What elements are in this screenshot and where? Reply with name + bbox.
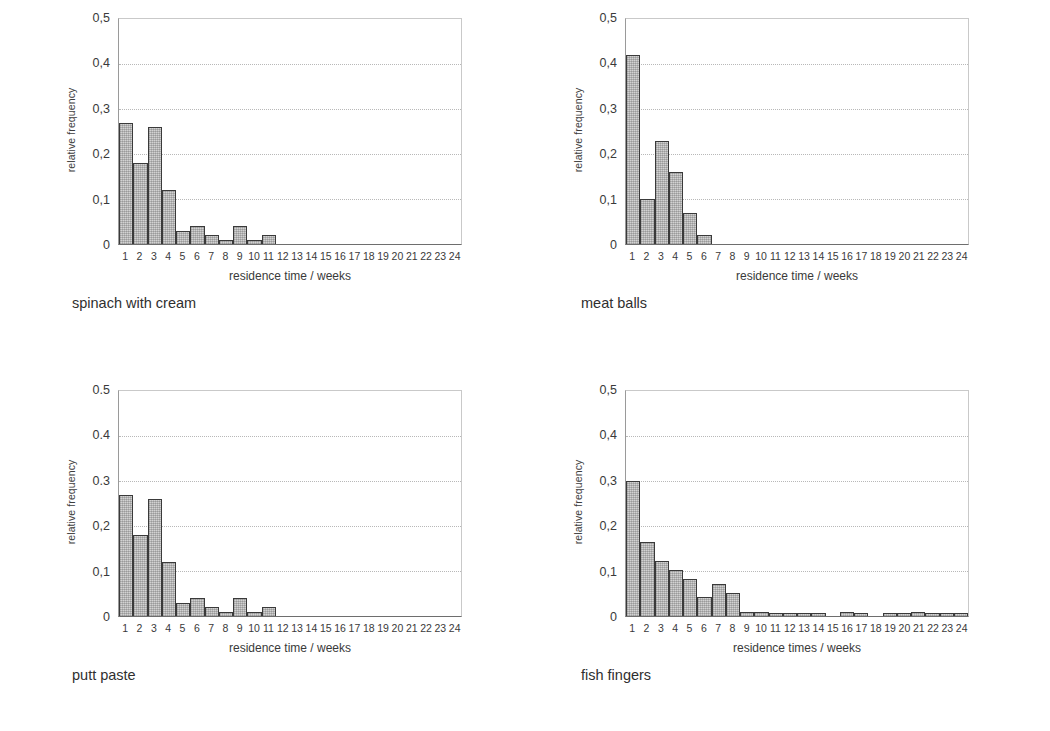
- bar: [119, 123, 133, 245]
- y-tick-label: 0,2: [600, 519, 617, 533]
- x-tick-label: 21: [912, 621, 926, 635]
- bar: [205, 235, 219, 244]
- bar-slot: [697, 391, 711, 616]
- y-tick-label: 0: [103, 238, 110, 252]
- bar: [954, 613, 968, 616]
- bar-slot: [347, 391, 361, 616]
- bar-slot: [911, 391, 925, 616]
- x-tick-label: 21: [405, 621, 419, 635]
- x-tick-label: 23: [433, 621, 447, 635]
- bar: [669, 570, 683, 616]
- x-tick-label: 5: [175, 621, 189, 635]
- x-tick-label: 17: [854, 249, 868, 263]
- bar: [726, 593, 740, 616]
- bar-slot: [940, 19, 954, 244]
- bar-slot: [754, 391, 768, 616]
- bar: [148, 499, 162, 616]
- x-tick-label: 20: [897, 249, 911, 263]
- bar-slot: [205, 19, 219, 244]
- bar: [133, 535, 147, 616]
- x-tick-label: 23: [940, 621, 954, 635]
- bar-slot: [233, 391, 247, 616]
- bar-slot: [304, 391, 318, 616]
- bar-slot: [376, 391, 390, 616]
- x-tick-label: 7: [204, 249, 218, 263]
- x-tick-label: 13: [797, 249, 811, 263]
- bar: [626, 55, 640, 244]
- x-tick-label: 14: [304, 621, 318, 635]
- bar: [262, 607, 276, 616]
- x-tick-label: 13: [797, 621, 811, 635]
- x-tick-label: 20: [897, 621, 911, 635]
- panel-caption: spinach with cream: [72, 295, 196, 311]
- x-tick-label: 2: [639, 249, 653, 263]
- bar: [754, 612, 768, 616]
- bar-slot: [811, 19, 825, 244]
- x-tick-label: 11: [768, 249, 782, 263]
- panel-caption: meat balls: [581, 295, 647, 311]
- bar-slot: [740, 391, 754, 616]
- x-tick-label: 1: [118, 249, 132, 263]
- bar-slot: [925, 391, 939, 616]
- x-tick-label: 8: [725, 621, 739, 635]
- x-tick-label: 23: [940, 249, 954, 263]
- x-tick-label: 10: [247, 621, 261, 635]
- x-tick-label: 4: [668, 621, 682, 635]
- x-tick-label: 11: [768, 621, 782, 635]
- bar-slot: [447, 391, 461, 616]
- x-tick-label: 15: [826, 249, 840, 263]
- bar-slot: [840, 391, 854, 616]
- bar-slot: [319, 19, 333, 244]
- bar-slot: [797, 19, 811, 244]
- x-tick-label: 3: [654, 249, 668, 263]
- bar-slot: [783, 391, 797, 616]
- bar-slot: [797, 391, 811, 616]
- y-tick-label: 0.4: [93, 428, 110, 442]
- panel-putt-paste: relative frequency 0.50.40.30,20,10 1234…: [0, 372, 505, 731]
- x-tick-label: 17: [347, 621, 361, 635]
- bar-slot: [418, 19, 432, 244]
- bar-slot: [190, 391, 204, 616]
- x-tick-label: 12: [783, 621, 797, 635]
- x-tick-label: 14: [811, 249, 825, 263]
- bar: [219, 240, 233, 245]
- x-tick-label: 3: [147, 249, 161, 263]
- panel-caption: putt paste: [72, 667, 136, 683]
- bar-slot: [361, 19, 375, 244]
- bar: [162, 190, 176, 244]
- bar-slot: [205, 391, 219, 616]
- bar: [783, 613, 797, 616]
- bar-slot: [219, 19, 233, 244]
- bar-slot: [447, 19, 461, 244]
- bar-series: [626, 19, 968, 244]
- bar: [219, 612, 233, 617]
- x-tick-label: 22: [419, 621, 433, 635]
- bar: [697, 235, 711, 244]
- x-axis-label: residence time / weeks: [118, 641, 462, 655]
- y-tick-label: 0,4: [600, 56, 617, 70]
- bar-slot: [290, 19, 304, 244]
- plot-area: [118, 18, 462, 245]
- bar: [262, 235, 276, 244]
- x-tick-label: 4: [161, 621, 175, 635]
- y-tick-label: 0,4: [93, 56, 110, 70]
- bar: [119, 495, 133, 617]
- bar-slot: [148, 391, 162, 616]
- x-tick-label: 24: [448, 249, 462, 263]
- x-axis-label: residence time / weeks: [625, 269, 969, 283]
- x-tick-label: 23: [433, 249, 447, 263]
- y-axis-label: relative frequency: [64, 14, 78, 245]
- x-axis-ticks: 123456789101112131415161718192021222324: [118, 621, 462, 635]
- x-tick-label: 18: [869, 249, 883, 263]
- y-tick-label: 0,2: [93, 519, 110, 533]
- y-axis-ticks: 0,50,40,30,20,10: [585, 390, 621, 617]
- x-tick-label: 18: [362, 621, 376, 635]
- x-tick-label: 3: [654, 621, 668, 635]
- bar-slot: [712, 19, 726, 244]
- bar: [247, 240, 261, 245]
- bar-slot: [162, 391, 176, 616]
- bar-series: [119, 19, 461, 244]
- y-tick-label: 0: [610, 238, 617, 252]
- y-axis-ticks: 0,50,40,30,20,10: [585, 18, 621, 245]
- y-axis-label: relative frequency: [571, 386, 585, 617]
